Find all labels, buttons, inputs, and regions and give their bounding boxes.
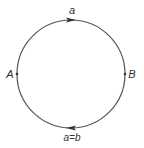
point-a: [16, 73, 19, 76]
circle-path: [17, 20, 125, 128]
label-top: a: [69, 4, 75, 16]
point-b: [124, 73, 127, 76]
label-bottom: a=b: [64, 132, 81, 143]
label-left: A: [5, 68, 13, 80]
circle-diagram: a A B a=b: [0, 0, 144, 148]
label-right: B: [128, 68, 135, 80]
